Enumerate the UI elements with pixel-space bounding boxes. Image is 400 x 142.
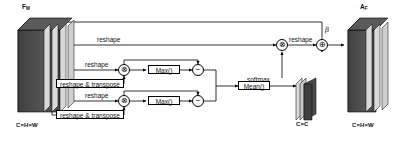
- beta-parameter-label: β: [325, 26, 329, 34]
- reshape-transpose-b1-box: reshape & transpose: [56, 79, 124, 88]
- reshape-b2-label: reshape: [84, 92, 110, 99]
- wire-bypass-b2: [124, 91, 198, 95]
- reshape-transpose-b2-box: reshape & transpose: [56, 110, 124, 119]
- attention-map-graphic: [296, 78, 316, 120]
- attention-map-dims: C×C: [296, 121, 308, 127]
- subtract-node-b2: −: [192, 95, 204, 107]
- multiply-node-b2: ⊗: [118, 95, 130, 107]
- output-tensor-dims: C×H×W: [352, 122, 374, 128]
- reshape-out-label: reshape: [288, 36, 314, 43]
- input-tensor-dims: C×H×W: [16, 122, 38, 128]
- max-b1-box: Max(): [148, 65, 180, 74]
- reshape-top-label: reshape: [96, 36, 122, 43]
- output-tensor-label: AF: [360, 3, 368, 10]
- add-node-output: ⊕: [316, 39, 328, 51]
- input-tensor-label: FM: [22, 3, 30, 10]
- wire-sub-b2-to-mean: [204, 86, 216, 101]
- reshape-b1-label: reshape: [84, 61, 110, 68]
- subtract-node-b1: −: [192, 64, 204, 76]
- max-b2-box: Max(): [148, 96, 180, 105]
- wire-bypass-b1: [124, 60, 198, 64]
- mean-box: Mean(): [238, 81, 270, 90]
- multiply-node-output: ⊗: [276, 39, 288, 51]
- wire-sub-b1-to-mean: [204, 70, 216, 86]
- input-tensor-graphic: [18, 18, 74, 112]
- output-tensor-graphic: [348, 18, 388, 112]
- multiply-node-b1: ⊗: [118, 64, 130, 76]
